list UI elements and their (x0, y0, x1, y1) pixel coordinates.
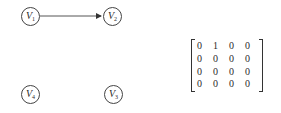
matrix-cell: 0 (243, 53, 259, 66)
matrix-cell: 0 (195, 78, 211, 91)
matrix-cell: 0 (227, 66, 243, 79)
matrix-cell: 1 (211, 40, 227, 53)
matrix-cell: 0 (211, 78, 227, 91)
matrix-right-bracket (259, 39, 263, 92)
node-v2: V2 (103, 7, 122, 26)
matrix-cell: 0 (211, 66, 227, 79)
node-v1: V1 (21, 7, 40, 26)
matrix-cell: 0 (243, 40, 259, 53)
matrix-cell: 0 (227, 53, 243, 66)
matrix-cell: 0 (195, 53, 211, 66)
node-v4-label: V4 (26, 89, 35, 100)
adjacency-matrix: 0 1 0 0 0 0 0 0 0 0 0 0 0 0 0 0 (191, 39, 263, 92)
node-v1-label: V1 (26, 11, 35, 22)
matrix-cell: 0 (195, 40, 211, 53)
matrix-cell: 0 (211, 53, 227, 66)
matrix-cell: 0 (227, 40, 243, 53)
matrix-cell: 0 (243, 66, 259, 79)
node-v2-label: V2 (108, 11, 117, 22)
node-v3-label: V3 (109, 89, 118, 100)
matrix-cell: 0 (195, 66, 211, 79)
node-v3: V3 (104, 85, 123, 104)
node-v4: V4 (21, 85, 40, 104)
matrix-grid: 0 1 0 0 0 0 0 0 0 0 0 0 0 0 0 0 (195, 40, 259, 91)
matrix-cell: 0 (227, 78, 243, 91)
matrix-cell: 0 (243, 78, 259, 91)
